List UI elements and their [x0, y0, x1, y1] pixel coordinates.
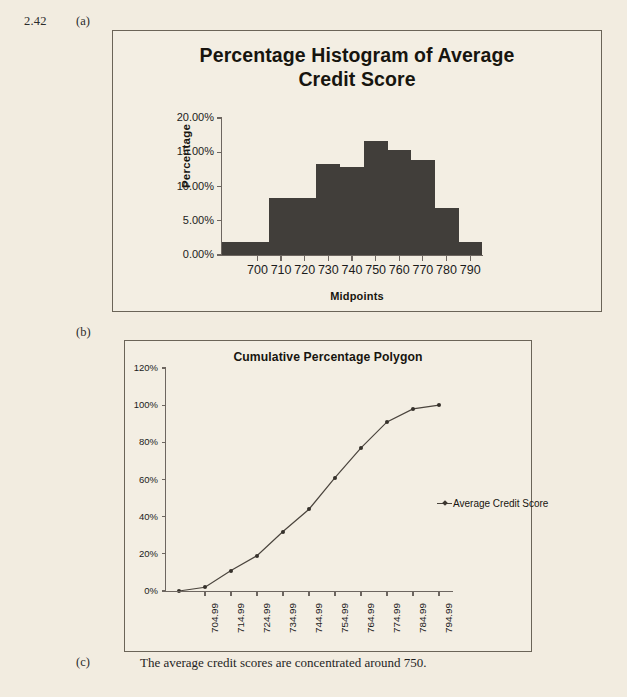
polygon-x-tick [230, 592, 231, 596]
histogram-x-tick [399, 256, 400, 261]
histogram-title-line2: Credit Score [113, 67, 601, 91]
histogram-y-tick [217, 220, 222, 221]
polygon-x-tick-label: 714.99 [235, 603, 246, 633]
polygon-x-tick-label: 784.99 [417, 603, 428, 633]
histogram-bar [340, 167, 364, 255]
histogram-bar [316, 164, 340, 255]
polygon-y-tick-label: 0% [114, 585, 158, 596]
histogram-y-tick [217, 186, 222, 187]
polygon-data-point [203, 585, 207, 589]
histogram-x-tick [446, 256, 447, 261]
polygon-data-point [385, 420, 389, 424]
histogram-bar [411, 160, 435, 255]
histogram-bar [222, 242, 246, 255]
polygon-x-tick [360, 592, 361, 596]
histogram-title: Percentage Histogram of Average Credit S… [113, 43, 601, 91]
polygon-data-point [229, 569, 233, 573]
polygon-x-tick-label: 764.99 [365, 603, 376, 633]
histogram-y-tick [217, 254, 222, 255]
histogram-y-tick-label: 0.00% [150, 248, 214, 260]
polygon-y-tick [162, 479, 166, 480]
histogram-y-tick-label: 5.00% [150, 214, 214, 226]
polygon-x-tick [204, 592, 205, 596]
polygon-x-tick-label: 774.99 [391, 603, 402, 633]
polygon-data-point [437, 403, 441, 407]
polygon-x-tick-label: 754.99 [339, 603, 350, 633]
polygon-y-tick-label: 100% [114, 399, 158, 410]
polygon-data-point [255, 554, 259, 558]
histogram-x-tick [280, 256, 281, 261]
polygon-legend-label: Average Credit Score [453, 498, 548, 509]
polygon-data-point [411, 407, 415, 411]
polygon-x-tick [412, 592, 413, 596]
histogram-bar [387, 150, 411, 255]
polygon-data-point [281, 530, 285, 534]
histogram-x-tick [375, 256, 376, 261]
polygon-y-tick [162, 367, 166, 368]
polygon-x-tick [334, 592, 335, 596]
polygon-line-series [166, 368, 452, 591]
polygon-x-tick [282, 592, 283, 596]
part-label-c: (c) [76, 655, 90, 670]
polygon-y-tick-label: 120% [114, 362, 158, 373]
polygon-x-tick [256, 592, 257, 596]
part-label-a: (a) [76, 14, 90, 29]
histogram-x-tick [304, 256, 305, 261]
polygon-data-point [333, 476, 337, 480]
line-marker-icon [437, 499, 452, 509]
polygon-data-point [307, 507, 311, 511]
polygon-x-tick-label: 794.99 [443, 603, 454, 633]
histogram-bar [434, 208, 458, 255]
polygon-y-tick-label: 40% [114, 511, 158, 522]
polygon-title: Cumulative Percentage Polygon [125, 350, 531, 364]
histogram-y-tick-label: 15.00% [150, 145, 214, 157]
polygon-y-tick [162, 590, 166, 591]
polygon-y-tick [162, 442, 166, 443]
part-label-b: (b) [76, 325, 91, 340]
histogram-x-axis-title: Midpoints [112, 290, 602, 302]
polygon-y-tick-label: 80% [114, 436, 158, 447]
histogram-bar [269, 198, 293, 255]
polygon-x-tick [438, 592, 439, 596]
histogram-y-tick [217, 152, 222, 153]
part-c-answer-text: The average credit scores are concentrat… [140, 655, 427, 671]
polygon-x-tick [386, 592, 387, 596]
polygon-y-tick [162, 405, 166, 406]
polygon-y-tick [162, 516, 166, 517]
polygon-x-tick-label: 724.99 [261, 603, 272, 633]
histogram-x-tick [257, 256, 258, 261]
histogram-bar [245, 242, 269, 255]
polygon-plot-area: 0%20%40%60%80%100%120%704.99714.99724.99… [166, 368, 452, 591]
histogram-bar [293, 198, 317, 255]
polygon-y-tick-label: 60% [114, 474, 158, 485]
polygon-y-tick [162, 553, 166, 554]
polygon-y-tick-label: 20% [114, 548, 158, 559]
histogram-y-tick [217, 117, 222, 118]
histogram-x-tick [351, 256, 352, 261]
histogram-x-tick [328, 256, 329, 261]
polygon-data-point [359, 446, 363, 450]
polygon-x-tick-label: 734.99 [287, 603, 298, 633]
polygon-x-tick [308, 592, 309, 596]
polygon-x-tick-label: 744.99 [313, 603, 324, 633]
polygon-x-tick-label: 704.99 [209, 603, 220, 633]
histogram-x-tick [422, 256, 423, 261]
textbook-solution-page: 2.42 (a) (b) (c) The average credit scor… [0, 0, 627, 697]
histogram-plot-area: 0.00%5.00%10.00%15.00%20.00%700710720730… [222, 118, 482, 255]
histogram-title-line1: Percentage Histogram of Average [113, 43, 601, 67]
histogram-x-tick-label: 790 [453, 263, 487, 277]
histogram-bar [458, 242, 482, 255]
problem-number: 2.42 [24, 14, 47, 29]
histogram-y-tick-label: 20.00% [150, 111, 214, 123]
histogram-x-tick [470, 256, 471, 261]
histogram-bar [364, 141, 388, 255]
histogram-y-tick-label: 10.00% [150, 180, 214, 192]
polygon-legend: Average Credit Score [437, 498, 548, 509]
